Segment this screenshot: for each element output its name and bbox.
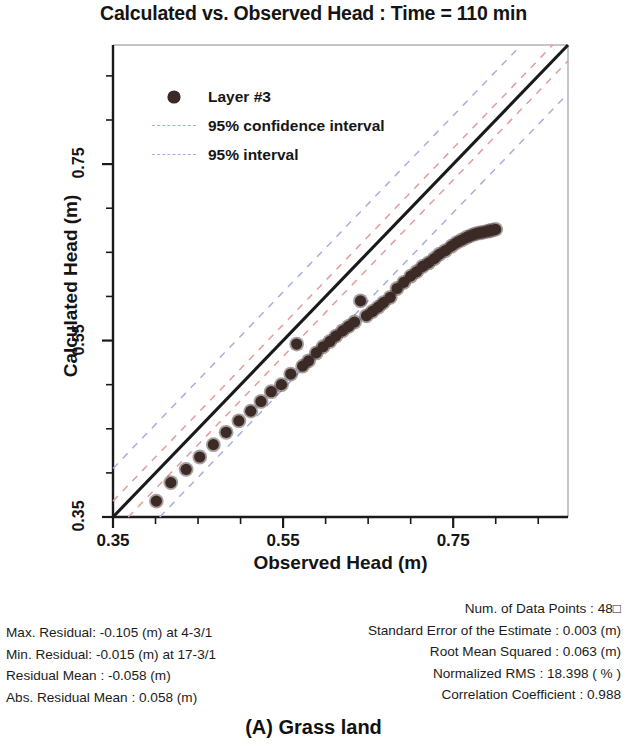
legend-dash-red-icon (146, 125, 202, 126)
data-point (165, 477, 176, 488)
legend-dash-blue-icon (146, 154, 202, 155)
statistic-line: Max. Residual: -0.105 (m) at 4-3/1 (6, 622, 216, 644)
legend-item-layer3: Layer #3 (146, 82, 385, 111)
statistic-line: Abs. Residual Mean : 0.058 (m) (6, 687, 216, 709)
data-point (349, 316, 360, 327)
legend-label-interval: 95% interval (202, 146, 298, 164)
statistics-panel: Max. Residual: -0.105 (m) at 4-3/1Min. R… (0, 598, 627, 708)
data-point (151, 496, 162, 507)
legend-item-confidence-interval: 95% confidence interval (146, 111, 385, 140)
legend-marker-icon (146, 91, 202, 103)
data-point (276, 379, 287, 390)
x-tick-label: 0.75 (437, 531, 470, 551)
data-point (285, 368, 296, 379)
chart-legend: Layer #3 95% confidence interval 95% int… (146, 82, 385, 169)
x-tick-label: 0.35 (96, 531, 129, 551)
data-point (245, 406, 256, 417)
data-point-group (149, 222, 503, 509)
chart-plot-area: Layer #3 95% confidence interval 95% int… (0, 0, 627, 600)
statistics-left-column: Max. Residual: -0.105 (m) at 4-3/1Min. R… (6, 622, 216, 708)
statistic-line: Root Mean Squared : 0.063 (m) (368, 641, 621, 663)
x-tick-label: 0.55 (267, 531, 300, 551)
data-point (355, 295, 366, 306)
statistic-line: Min. Residual: -0.015 (m) at 17-3/1 (6, 644, 216, 666)
data-point (255, 396, 266, 407)
data-point (181, 464, 192, 475)
statistic-line: Num. of Data Points : 48□ (368, 598, 621, 620)
data-point (233, 415, 244, 426)
x-axis-title: Observed Head (m) (113, 552, 568, 574)
figure-caption: (A) Grass land (0, 716, 627, 739)
statistics-right-column: Num. of Data Points : 48□Standard Error … (368, 598, 621, 706)
statistic-line: Residual Mean : -0.058 (m) (6, 665, 216, 687)
legend-item-interval: 95% interval (146, 140, 385, 169)
y-axis-title: Calculated Head (m) (60, 76, 82, 496)
x-axis-ticks (113, 517, 538, 528)
statistic-line: Standard Error of the Estimate : 0.003 (… (368, 620, 621, 642)
data-point (221, 427, 232, 438)
y-tick-label: 0.35 (70, 488, 88, 544)
statistic-line: Correlation Coefficient : 0.988 (368, 684, 621, 706)
statistic-line: Normalized RMS : 18.398 ( % ) (368, 663, 621, 685)
data-point (490, 224, 501, 235)
data-point (208, 439, 219, 450)
data-point (291, 338, 302, 349)
legend-label-confidence-interval: 95% confidence interval (202, 117, 385, 135)
y-axis-ticks (102, 76, 113, 517)
data-point (194, 451, 205, 462)
legend-label-layer3: Layer #3 (202, 88, 271, 106)
